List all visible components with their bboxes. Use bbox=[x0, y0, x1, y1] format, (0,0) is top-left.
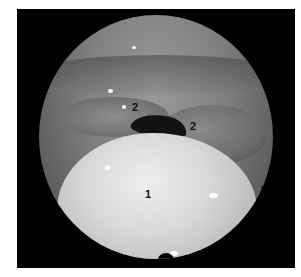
specular-highlight bbox=[108, 89, 113, 93]
specular-highlight bbox=[208, 249, 213, 253]
marker-dot bbox=[261, 186, 264, 189]
upper-tissue-fold bbox=[39, 55, 273, 95]
label-2-left: 2 bbox=[132, 101, 138, 113]
endoscopic-image-frame: 2 2 1 bbox=[17, 9, 295, 268]
label-1-mass: 1 bbox=[145, 188, 151, 200]
endoscope-circular-view: 2 2 1 bbox=[39, 15, 273, 259]
specular-highlight bbox=[209, 193, 218, 198]
label-2-right: 2 bbox=[190, 120, 196, 132]
specular-highlight bbox=[105, 165, 110, 170]
specular-highlight bbox=[122, 105, 126, 109]
specular-highlight bbox=[132, 46, 136, 49]
